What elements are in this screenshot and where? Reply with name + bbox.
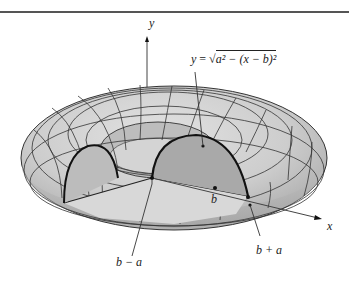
point-b-plus-a <box>246 195 250 199</box>
curve-equation: y = √a² − (x − b)² <box>191 53 276 65</box>
point-b <box>213 186 217 190</box>
equation-equals: = <box>199 52 206 66</box>
point-b-minus-a <box>150 176 154 180</box>
b-minus-a-label: b − a <box>116 256 142 268</box>
equation-sqrt-content: a² − (x − b)² <box>216 50 277 66</box>
equation-lhs: y <box>191 52 196 66</box>
b-plus-a-label: b + a <box>256 244 282 256</box>
torus-figure <box>0 0 349 292</box>
sqrt-sign: √ <box>209 52 216 66</box>
x-axis-label: x <box>327 220 332 232</box>
y-axis-label: y <box>149 17 154 29</box>
center-b-label: b <box>211 193 217 205</box>
